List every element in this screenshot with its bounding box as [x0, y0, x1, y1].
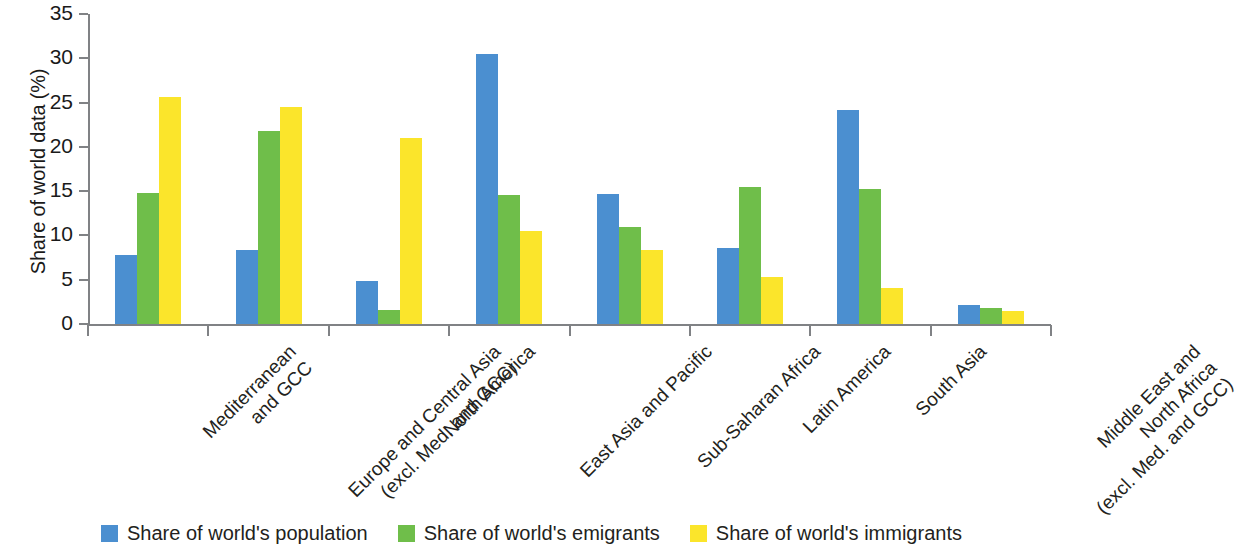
- bar: [881, 288, 903, 324]
- bar: [520, 231, 542, 324]
- x-axis-label-line: Latin America: [798, 340, 896, 438]
- y-axis-tick-label: 30: [50, 45, 73, 69]
- x-axis-tick: [809, 325, 811, 336]
- legend-swatch-icon: [690, 525, 707, 542]
- legend-label: Share of world's population: [127, 522, 368, 545]
- x-axis-tick: [328, 325, 330, 336]
- y-axis-tick: 25: [79, 102, 88, 104]
- y-axis-tick: 35: [79, 13, 88, 15]
- bar: [958, 305, 980, 324]
- x-axis-label-line: (excl. Med. and GCC): [359, 356, 521, 518]
- bar: [837, 110, 859, 324]
- y-axis-tick-label: 10: [50, 222, 73, 246]
- chart-legend: Share of world's populationShare of worl…: [0, 522, 1063, 545]
- bar: [400, 138, 422, 324]
- x-axis-tick: [448, 325, 450, 336]
- x-axis-label: East Asia and Pacific: [575, 340, 717, 482]
- bar: [356, 281, 378, 324]
- y-axis-tick-label: 0: [61, 311, 73, 335]
- x-axis-label-line: Europe and Central Asia: [343, 340, 505, 502]
- bar: [761, 277, 783, 324]
- x-axis-label-line: Middle East and: [1059, 340, 1205, 486]
- x-axis-label: Europe and Central Asia(excl. Med. and G…: [343, 340, 521, 518]
- bar: [258, 131, 280, 324]
- y-axis-tick: 30: [79, 57, 88, 59]
- x-axis-label: Sub-Saharan Africa: [692, 340, 825, 473]
- x-axis-label-line: East Asia and Pacific: [575, 340, 717, 482]
- y-axis-tick: 20: [79, 146, 88, 148]
- legend-label: Share of world's emigrants: [424, 522, 660, 545]
- bar: [980, 308, 1002, 324]
- bar: [378, 310, 400, 324]
- x-axis-label: North America: [438, 340, 539, 441]
- bar: [498, 195, 520, 324]
- legend-item[interactable]: Share of world's immigrants: [690, 522, 962, 545]
- x-axis-label: Mediterraneanand GCC: [198, 340, 317, 459]
- x-axis-tick: [569, 325, 571, 336]
- legend-swatch-icon: [101, 525, 118, 542]
- y-axis-tick-label: 15: [50, 178, 73, 202]
- y-axis-line: [88, 14, 90, 325]
- y-axis-title: Share of world data (%): [27, 22, 50, 322]
- bar: [1002, 311, 1024, 324]
- y-axis-tick-label: 25: [50, 90, 73, 114]
- bar: [717, 248, 739, 324]
- x-axis-label-line: (excl. Med. and GCC): [1091, 373, 1237, 519]
- y-axis-tick: 15: [79, 190, 88, 192]
- y-axis-tick-label: 5: [61, 267, 73, 291]
- x-axis-tick: [930, 325, 932, 336]
- y-axis-tick: 5: [79, 279, 88, 281]
- y-axis-tick-label: 35: [50, 1, 73, 25]
- bar: [280, 107, 302, 324]
- x-axis-label: South Asia: [911, 340, 991, 420]
- x-axis-label-line: South Asia: [911, 340, 991, 420]
- bar: [739, 187, 761, 324]
- legend-item[interactable]: Share of world's population: [101, 522, 368, 545]
- bar: [641, 250, 663, 324]
- bar: [115, 255, 137, 324]
- bar: [619, 227, 641, 324]
- x-axis-label-line: Mediterranean: [198, 340, 301, 443]
- x-axis-label-line: and GCC: [214, 356, 317, 459]
- x-axis-label-line: North Africa: [1075, 356, 1221, 502]
- bar: [137, 193, 159, 324]
- legend-label: Share of world's immigrants: [716, 522, 962, 545]
- legend-swatch-icon: [398, 525, 415, 542]
- x-axis-label: Middle East andNorth Africa(excl. Med. a…: [1059, 340, 1237, 519]
- y-axis-tick-label: 20: [50, 134, 73, 158]
- x-axis-label-line: Sub-Saharan Africa: [692, 340, 825, 473]
- bar: [476, 54, 498, 324]
- x-axis-tick: [689, 325, 691, 336]
- x-axis-tick: [207, 325, 209, 336]
- x-axis-label: Latin America: [798, 340, 896, 438]
- bar: [159, 97, 181, 324]
- x-axis-tick: [87, 325, 89, 336]
- x-axis-label-line: North America: [438, 340, 539, 441]
- y-axis-tick: 10: [79, 234, 88, 236]
- x-axis-tick: [1050, 325, 1052, 336]
- legend-item[interactable]: Share of world's emigrants: [398, 522, 660, 545]
- plot-area: 05101520253035: [88, 14, 1051, 324]
- bar: [236, 250, 258, 324]
- bar: [859, 189, 881, 324]
- bar: [597, 194, 619, 324]
